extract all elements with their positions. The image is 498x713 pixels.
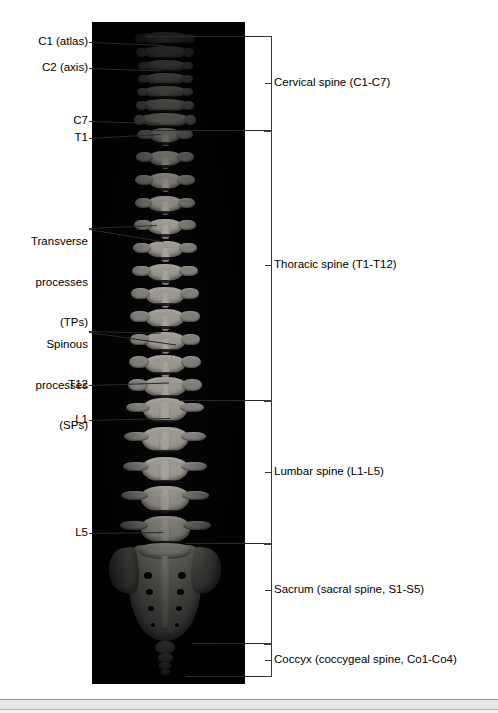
bracket-tick-coccyx	[265, 660, 272, 661]
vertebra-l4-tp-right	[182, 491, 209, 500]
vertebra-t3-gap	[151, 188, 179, 191]
leader-line-cervical-bottom	[155, 130, 271, 131]
sacral-foramen-left-4	[151, 623, 155, 627]
vertebra-t8-tp-left	[131, 288, 150, 299]
vertebra-t3-tp-left	[135, 175, 153, 185]
label-l1: L1	[0, 413, 88, 427]
bracket-tick-sacrum	[265, 590, 272, 591]
sacrum-ala-left	[106, 546, 142, 596]
leader-line-lumbar-bottom	[186, 543, 271, 544]
leader-line-coccyx-bottom	[186, 676, 271, 677]
vertebra-t2-gap	[151, 165, 178, 168]
vertebra-t2-tp-right	[177, 152, 194, 162]
vertebra-t11-gap	[147, 372, 184, 375]
vertebra-t8-tp-right	[180, 288, 199, 299]
vertebra-t7-tp-right	[179, 266, 198, 277]
leader-line-cervical-top	[145, 36, 271, 37]
vertebra-t11-tp-right	[181, 356, 201, 368]
vertebra-t12-tp-left	[128, 379, 148, 391]
label-t12: T12	[0, 378, 88, 392]
sacral-foramen-left-1	[144, 572, 152, 579]
label-thoracic-spine: Thoracic spine (T1-T12)	[274, 258, 397, 272]
vertebra-t1-gap	[152, 142, 178, 145]
vertebra-l3-gap	[145, 480, 186, 484]
vertebra-t6-gap	[149, 257, 180, 260]
vertebra-c6-tp-left	[136, 101, 147, 110]
label-c7: C7	[0, 114, 88, 128]
sacral-foramen-right-2	[177, 589, 184, 595]
vertebra-t7-tp-left	[132, 266, 151, 277]
vertebra-t3-tp-right	[177, 175, 195, 185]
label-sacrum: Sacrum (sacral spine, S1-S5)	[274, 583, 424, 597]
vertebra-t12-tp-right	[182, 379, 202, 391]
vertebra-c5-tp-left	[137, 88, 148, 96]
spine-anatomy-figure: C1 (atlas) C2 (axis) C7 T1 Transverse pr…	[0, 0, 498, 713]
vertebra-c7-tp-right	[185, 115, 196, 125]
sacral-foramen-right-1	[178, 572, 186, 579]
vertebra-l2-gap	[145, 450, 184, 454]
label-c1-atlas: C1 (atlas)	[0, 35, 88, 49]
label-spinous-processes-line1: Spinous	[0, 338, 88, 352]
label-transverse-processes-line2: processes	[0, 276, 88, 290]
vertebra-c4-tp-right	[182, 75, 193, 83]
leader-line-thoracic-bottom	[179, 400, 271, 401]
vertebra-t4-gap	[150, 211, 179, 214]
vertebra-t8-gap	[148, 303, 182, 306]
sacrum-ala-right	[188, 546, 224, 596]
vertebra-t5-gap	[150, 234, 180, 237]
sacral-foramen-right-3	[176, 606, 182, 611]
vertebra-t9-tp-right	[180, 311, 199, 322]
leader-line-sacrum-bottom	[192, 643, 271, 644]
bracket-tick-cervical	[265, 83, 272, 84]
label-t1: T1	[0, 131, 88, 145]
vertebra-l3-sp	[159, 461, 171, 483]
vertebra-l4-sp	[159, 490, 171, 512]
vertebra-l1-tp-left	[126, 403, 150, 412]
vertebra-l3-tp-right	[181, 462, 207, 471]
vertebra-l5-tp-left	[120, 521, 148, 530]
vertebra-t10-sp	[161, 339, 170, 354]
vertebra-c6-tp-right	[183, 101, 194, 110]
vertebra-t6-tp-right	[179, 243, 197, 254]
label-lumbar-spine: Lumbar spine (L1-L5)	[274, 465, 384, 479]
vertebra-l4-tp-left	[121, 491, 148, 500]
vertebra-t4-tp-left	[135, 198, 153, 208]
vertebra-l2-tp-right	[181, 432, 206, 441]
vertebra-t10-gap	[147, 349, 183, 352]
vertebra-c2-axis-tp-right	[183, 48, 194, 57]
vertebra-l4-gap	[144, 510, 186, 514]
label-cervical-spine: Cervical spine (C1-C7)	[274, 76, 390, 90]
vertebra-t9-tp-left	[130, 311, 149, 322]
sacral-foramen-left-3	[148, 606, 154, 611]
vertebra-c3-tp-right	[182, 62, 193, 70]
bracket-tick-thoracic	[265, 265, 272, 266]
page-edge-band	[0, 700, 498, 709]
vertebra-t9-gap	[148, 326, 183, 329]
coccyx-co4-gap	[162, 675, 169, 677]
vertebra-l5-tp-right	[183, 521, 211, 530]
label-transverse-processes-line1: Transverse	[0, 235, 88, 249]
vertebra-c5-tp-right	[182, 88, 193, 96]
label-l5: L5	[0, 526, 88, 540]
vertebra-t11-tp-left	[129, 356, 149, 368]
vertebra-l1-tp-right	[180, 403, 204, 412]
vertebra-t7-gap	[149, 280, 182, 283]
label-c2-axis: C2 (axis)	[0, 61, 88, 75]
vertebra-t4-tp-right	[178, 198, 196, 208]
bracket-thoracic	[264, 131, 272, 401]
vertebra-t5-tp-right	[178, 220, 196, 230]
vertebra-t11-sp	[161, 362, 170, 378]
vertebra-l1-gap	[146, 420, 184, 424]
sacrum-median-crest	[160, 556, 170, 630]
bracket-tick-lumbar	[265, 472, 272, 473]
label-coccyx: Coccyx (coccygeal spine, Co1-Co4)	[274, 653, 457, 667]
vertebra-c4-tp-left	[138, 75, 149, 83]
vertebra-c2-axis-tp-left	[136, 48, 147, 57]
sacral-foramen-left-2	[146, 589, 153, 595]
vertebra-t10-tp-right	[181, 334, 200, 346]
vertebra-t2-tp-left	[136, 152, 153, 162]
bracket-sacrum	[264, 544, 272, 644]
vertebra-l3-tp-left	[123, 462, 149, 471]
